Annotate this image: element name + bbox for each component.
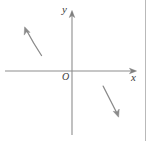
coordinate-plane-figure: y x O — [0, 0, 151, 141]
coordinate-plane-svg — [0, 0, 151, 141]
fourth-quadrant-arrow — [103, 86, 119, 117]
origin-label: O — [62, 72, 69, 82]
fourth-quadrant-arrow-stroke — [103, 86, 117, 114]
fourth-quadrant-arrowhead-icon — [113, 109, 119, 117]
y-axis-label: y — [62, 4, 67, 15]
y-axis — [69, 11, 74, 136]
second-quadrant-arrow-stroke — [26, 30, 41, 56]
x-axis — [5, 68, 137, 73]
x-axis-label: x — [131, 72, 136, 83]
second-quadrant-arrow — [24, 27, 41, 56]
